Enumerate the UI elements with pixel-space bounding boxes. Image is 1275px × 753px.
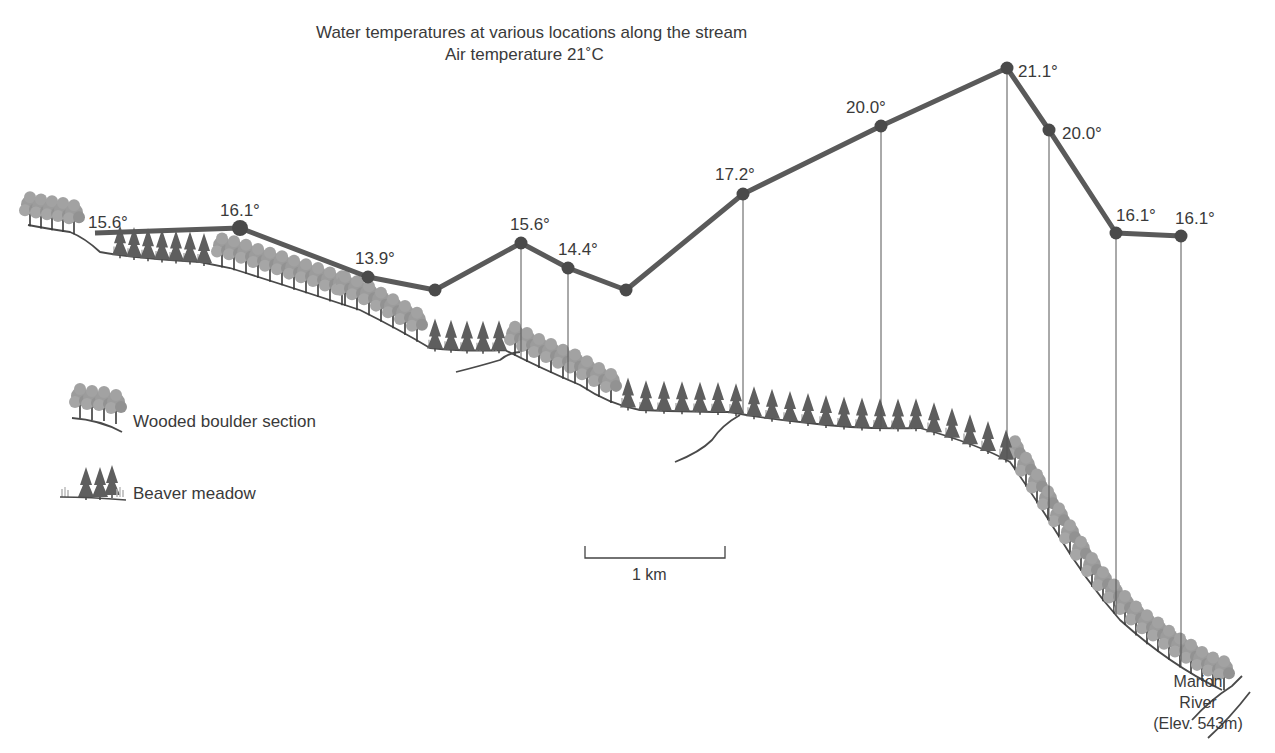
legend-meadow-label: Beaver meadow	[133, 484, 256, 504]
scale-bar	[585, 546, 725, 558]
river-name-line-1: Marion	[1138, 671, 1258, 692]
temperature-label: 17.2°	[715, 165, 755, 184]
temperature-point	[232, 220, 248, 236]
temperature-label: 14.4°	[558, 240, 598, 259]
legend-wooded-label: Wooded boulder section	[133, 412, 316, 432]
stream-ground-profile	[28, 225, 1250, 738]
temperature-point	[1043, 124, 1056, 137]
temperature-point	[875, 120, 888, 133]
temperature-point	[737, 188, 750, 201]
temperature-label: 13.9°	[355, 249, 395, 268]
stream-profile-diagram: 15.6°16.1°13.9°15.6°14.4°17.2°20.0°21.1°…	[0, 0, 1275, 753]
temperature-label: 15.6°	[88, 213, 128, 232]
temperature-point	[1001, 62, 1014, 75]
river-name-line-2: River	[1138, 692, 1258, 713]
temperature-point	[1175, 230, 1188, 243]
temperature-point	[620, 284, 633, 297]
temperature-label: 16.1°	[1175, 209, 1215, 228]
temperature-label: 21.1°	[1018, 62, 1058, 81]
temperature-label: 16.1°	[1116, 206, 1156, 225]
temperature-label: 20.0°	[846, 98, 886, 117]
temperature-label: 15.6°	[510, 215, 550, 234]
temperature-point	[1110, 227, 1123, 240]
temperature-label: 16.1°	[220, 201, 260, 220]
vegetation	[19, 191, 1235, 690]
scale-bar-label: 1 km	[632, 566, 667, 584]
temperature-point	[515, 237, 528, 250]
temperature-label: 20.0°	[1062, 124, 1102, 143]
temperature-point	[362, 271, 375, 284]
drop-lines	[521, 68, 1181, 666]
legend-meadow-icon	[60, 465, 126, 500]
temperature-point	[562, 262, 575, 275]
temperature-point	[429, 284, 442, 297]
river-elevation: (Elev. 543m)	[1138, 713, 1258, 734]
legend-wooded-icon	[69, 383, 127, 432]
river-annotation: Marion River (Elev. 543m)	[1138, 671, 1258, 734]
